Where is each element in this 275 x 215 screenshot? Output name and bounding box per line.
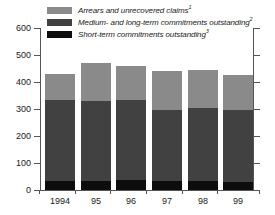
legend-footnote-arrears: 1 [188,4,191,10]
bar-segment-96-arrears-and-unrecovered-claims [116,66,146,101]
x-axis-label-98: 98 [183,196,223,206]
bar-segment-97-short-term-commitments-outstanding [152,181,182,190]
bar-98 [188,28,218,190]
x-tick-97 [146,190,147,194]
stacked-bar-chart: Arrears and unrecovered claims1 Medium- … [0,0,275,215]
y-tick-300 [34,109,40,110]
x-tick-1994 [39,190,40,194]
y-tick-right-600 [254,28,260,29]
bar-segment-96-short-term-commitments-outstanding [116,180,146,190]
legend-label-arrears: Arrears and unrecovered claims1 [78,6,191,15]
y-axis-label-300: 300 [5,105,31,114]
plot-area: 0100200300400500600 19949596979899 [40,28,254,190]
bar-segment-1994-arrears-and-unrecovered-claims [45,74,75,100]
y-tick-200 [34,136,40,137]
bar-segment-95-arrears-and-unrecovered-claims [81,63,111,101]
x-axis-label-96: 96 [111,196,151,206]
y-tick-right-100 [254,163,260,164]
bar-segment-98-arrears-and-unrecovered-claims [188,70,218,108]
legend-footnote-medium-long-term: 2 [250,16,253,22]
bar-segment-97-medium-and-long-term-commitments-outstanding [152,110,182,181]
y-axis-label-500: 500 [5,51,31,60]
x-axis-label-99: 99 [218,196,258,206]
bar-99 [223,28,253,190]
bar-segment-98-short-term-commitments-outstanding [188,181,218,190]
legend-text-medium-long-term: Medium- and long-term commitments outsta… [78,18,250,27]
bar-segment-98-medium-and-long-term-commitments-outstanding [188,108,218,181]
bar-segment-99-short-term-commitments-outstanding [223,182,253,190]
y-tick-600 [34,28,40,29]
y-tick-right-200 [254,136,260,137]
y-tick-right-500 [254,55,260,56]
x-tick-96 [110,190,111,194]
y-tick-500 [34,55,40,56]
x-tick-98 [182,190,183,194]
bar-segment-99-arrears-and-unrecovered-claims [223,75,253,110]
legend-swatch-arrears [47,7,72,14]
bar-segment-1994-short-term-commitments-outstanding [45,181,75,190]
x-axis-label-95: 95 [76,196,116,206]
y-axis-label-600: 600 [5,24,31,33]
legend-item-arrears: Arrears and unrecovered claims1 [47,5,262,16]
x-axis-label-1994: 1994 [40,196,80,206]
y-axis-label-200: 200 [5,132,31,141]
y-axis-label-0: 0 [5,186,31,195]
x-axis-line [40,190,254,191]
y-tick-100 [34,163,40,164]
bar-segment-99-medium-and-long-term-commitments-outstanding [223,110,253,182]
x-tick-95 [75,190,76,194]
bar-segment-95-short-term-commitments-outstanding [81,181,111,190]
legend-label-medium-long-term: Medium- and long-term commitments outsta… [78,18,253,27]
legend-text-arrears: Arrears and unrecovered claims [78,6,188,15]
bar-segment-97-arrears-and-unrecovered-claims [152,71,182,109]
bar-segment-96-medium-and-long-term-commitments-outstanding [116,100,146,179]
bars-layer [40,28,254,190]
legend-swatch-medium-long-term [47,19,72,26]
y-axis-label-400: 400 [5,78,31,87]
x-axis-label-97: 97 [147,196,187,206]
legend-item-medium-long-term: Medium- and long-term commitments outsta… [47,17,262,28]
x-tick-99 [217,190,218,194]
y-tick-right-400 [254,82,260,83]
bar-97 [152,28,182,190]
x-tick-end [259,190,260,194]
y-tick-400 [34,82,40,83]
y-tick-right-300 [254,109,260,110]
bar-segment-1994-medium-and-long-term-commitments-outstanding [45,100,75,181]
y-axis-label-100: 100 [5,159,31,168]
bar-1994 [45,28,75,190]
bar-96 [116,28,146,190]
bar-segment-95-medium-and-long-term-commitments-outstanding [81,101,111,180]
bar-95 [81,28,111,190]
